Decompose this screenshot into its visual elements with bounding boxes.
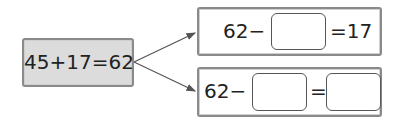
- eq2-result-blank[interactable]: [326, 73, 381, 111]
- eq2-subtrahend-blank[interactable]: [252, 73, 307, 111]
- eq2-equals: =: [310, 79, 327, 103]
- eq1-prefix: 62−: [223, 19, 265, 43]
- eq1-suffix: =17: [330, 19, 372, 43]
- derived-equation-2: 62− =: [197, 67, 382, 117]
- eq2-prefix: 62−: [204, 79, 246, 103]
- source-equation-box: 45+17=62: [22, 38, 134, 87]
- source-equation: 45+17=62: [24, 50, 132, 74]
- derived-equation-1: 62− =17: [197, 7, 382, 56]
- arrow-up: [134, 33, 195, 62]
- eq1-answer-blank[interactable]: [271, 13, 326, 50]
- arrow-down: [134, 62, 195, 91]
